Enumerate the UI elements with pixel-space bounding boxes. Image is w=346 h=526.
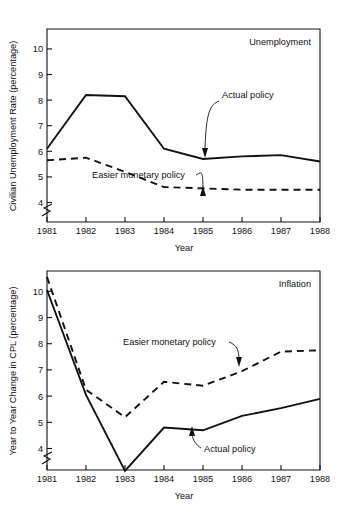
annotation-label: Easier monetary policy bbox=[92, 170, 185, 180]
y-tick-label: 10 bbox=[33, 287, 43, 297]
x-tick-label: 1987 bbox=[271, 474, 291, 484]
y-tick-label: 5 bbox=[38, 172, 43, 182]
plot-frame-inflation bbox=[47, 271, 320, 470]
annotation-label: Actual policy bbox=[204, 444, 256, 454]
panel-title-unemployment: Unemployment bbox=[249, 37, 311, 47]
x-axis-ticks-unemployment bbox=[47, 217, 320, 222]
x-tick-label: 1983 bbox=[115, 226, 135, 236]
chart-unemployment: 10 9 8 7 6 5 4 1981 bbox=[0, 0, 346, 263]
y-tick-label: 4 bbox=[38, 198, 43, 208]
annotation-label: Actual policy bbox=[222, 90, 274, 100]
y-tick-label: 9 bbox=[38, 70, 43, 80]
y-tick-label: 7 bbox=[38, 365, 43, 375]
x-tick-label: 1983 bbox=[115, 474, 135, 484]
x-tick-label: 1986 bbox=[232, 474, 252, 484]
x-tick-label: 1984 bbox=[154, 226, 174, 236]
y-tick-label: 4 bbox=[38, 444, 43, 454]
y-tick-label: 6 bbox=[38, 392, 43, 402]
x-tick-labels-inflation: 1981 1982 1983 1984 1985 1986 1987 1988 bbox=[37, 474, 330, 484]
x-axis-ticks-inflation bbox=[47, 465, 320, 470]
x-tick-label: 1985 bbox=[193, 474, 213, 484]
annotation-easier-monetary-policy-inflation: Easier monetary policy bbox=[123, 337, 242, 367]
x-tick-label: 1981 bbox=[37, 226, 57, 236]
y-axis-ticks-unemployment bbox=[47, 49, 52, 203]
x-tick-label: 1982 bbox=[76, 226, 96, 236]
x-tick-label: 1986 bbox=[232, 226, 252, 236]
y-tick-label: 8 bbox=[38, 339, 43, 349]
y-tick-label: 7 bbox=[38, 121, 43, 131]
y-tick-label: 5 bbox=[38, 418, 43, 428]
annotation-arrow-icon bbox=[236, 357, 242, 367]
annotation-actual-policy-unemployment: Actual policy bbox=[202, 90, 274, 158]
y-axis-title: Civilian Unemployment Rate (percentage) bbox=[8, 41, 18, 212]
y-tick-label: 10 bbox=[33, 44, 43, 54]
y-tick-labels-unemployment: 10 9 8 7 6 5 4 bbox=[33, 44, 43, 208]
series-actual-policy-inflation bbox=[47, 290, 320, 471]
y-tick-label: 8 bbox=[38, 96, 43, 106]
unemployment-svg: 10 9 8 7 6 5 4 1981 bbox=[0, 0, 346, 263]
series-easier-monetary-policy-inflation bbox=[47, 277, 320, 417]
y-axis-ticks-inflation bbox=[47, 291, 52, 448]
chart-inflation: 10 9 8 7 6 5 4 1981 bbox=[0, 263, 346, 526]
panel-title-inflation: Inflation bbox=[279, 279, 311, 289]
x-axis-title: Year bbox=[175, 491, 194, 501]
x-tick-label: 1982 bbox=[76, 474, 96, 484]
y-tick-label: 9 bbox=[38, 313, 43, 323]
x-tick-labels-unemployment: 1981 1982 1983 1984 1985 1986 1987 1988 bbox=[37, 226, 330, 236]
x-tick-label: 1988 bbox=[310, 226, 330, 236]
annotation-arrow-icon bbox=[189, 426, 195, 436]
annotation-arrow-icon bbox=[202, 148, 208, 158]
series-actual-policy-unemployment bbox=[47, 95, 320, 162]
x-tick-label: 1984 bbox=[154, 474, 174, 484]
y-tick-label: 6 bbox=[38, 147, 43, 157]
y-tick-labels-inflation: 10 9 8 7 6 5 4 bbox=[33, 287, 43, 454]
x-axis-title: Year bbox=[175, 243, 194, 253]
annotation-label: Easier monetary policy bbox=[123, 337, 216, 347]
x-tick-label: 1988 bbox=[310, 474, 330, 484]
x-tick-label: 1981 bbox=[37, 474, 57, 484]
plot-frame-unemployment bbox=[47, 29, 320, 222]
x-tick-label: 1985 bbox=[193, 226, 213, 236]
figure-page: 10 9 8 7 6 5 4 1981 bbox=[0, 0, 346, 526]
x-tick-label: 1987 bbox=[271, 226, 291, 236]
y-axis-title: Year to Year Change in CPL (percentage) bbox=[8, 287, 18, 456]
annotation-easier-monetary-policy-unemployment: Easier monetary policy bbox=[92, 170, 206, 196]
inflation-svg: 10 9 8 7 6 5 4 1981 bbox=[0, 263, 346, 526]
